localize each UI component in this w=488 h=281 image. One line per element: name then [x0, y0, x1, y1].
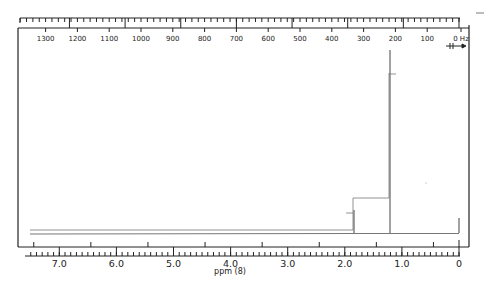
spectrum-baseline [30, 234, 459, 235]
integration-trace [30, 73, 389, 230]
hz-tick-label: 600 [262, 35, 275, 43]
bottom-ppm-ruler [25, 247, 460, 256]
hz-tick-label: 300 [357, 35, 370, 43]
ppm-tick-label: 6.0 [109, 258, 124, 269]
hz-tick-label: 200 [389, 35, 402, 43]
ppm-tick-labels: 7.06.05.04.03.02.01.00 [52, 258, 462, 269]
ppm-tick-label: 3.0 [280, 258, 295, 269]
inner-ppm-ticks [34, 240, 459, 247]
speck [425, 182, 426, 183]
hz-tick-label: 500 [293, 35, 306, 43]
hz-tick-labels: 1300120011001000900800700600500400300200… [37, 28, 469, 43]
ppm-tick-label: 2.0 [337, 258, 352, 269]
hz-tick-label: 1300 [37, 35, 55, 43]
top-hz-ruler [20, 18, 460, 28]
sweep-offset-arrow-icon [446, 43, 466, 49]
ppm-tick-label: 7.0 [52, 258, 67, 269]
hz-tick-label: 400 [325, 35, 338, 43]
hz-tick-label: 900 [166, 35, 179, 43]
nmr-spectrum-chart: 1300120011001000900800700600500400300200… [0, 0, 488, 281]
hz-tick-label: 1100 [100, 35, 118, 43]
hz-tick-label: 1200 [68, 35, 86, 43]
hz-tick-label: 800 [198, 35, 211, 43]
hz-tick-label: 100 [421, 35, 434, 43]
ppm-tick-label: 1.0 [394, 258, 409, 269]
hz-tick-label: 1000 [132, 35, 150, 43]
plot-frame [18, 25, 469, 247]
spectrum-peaks [354, 50, 459, 233]
ppm-tick-label: 5.0 [166, 258, 181, 269]
ppm-tick-label: 0 [456, 258, 462, 269]
x-axis-title: ppm (8) [214, 267, 246, 276]
hz-tick-label: 0 Hz [453, 35, 469, 43]
hz-tick-label: 700 [230, 35, 243, 43]
